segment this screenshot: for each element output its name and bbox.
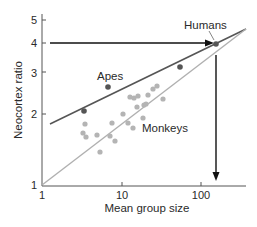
x-tick-label-1: 1 <box>39 189 45 201</box>
neocortex-group-size-chart: 5 4 3 2 1 1 10 100 Mean group size Neoco… <box>0 0 257 227</box>
monkeys-label-marker <box>130 125 135 130</box>
apes-label: Apes <box>97 70 123 82</box>
x-tick-label-100: 100 <box>192 189 210 201</box>
humans-leader-line <box>209 31 214 40</box>
y-tick-label-4: 4 <box>31 37 37 49</box>
x-axis-title: Mean group size <box>104 202 189 214</box>
y-tick-label-3: 3 <box>31 67 37 79</box>
arrowhead-down-icon <box>213 172 220 181</box>
monkeys-points <box>80 83 165 154</box>
humans-label: Humans <box>184 19 227 31</box>
monkeys-label: Monkeys <box>142 122 188 134</box>
y-tick-label-1: 1 <box>31 179 37 191</box>
humans-point <box>213 41 219 47</box>
x-tick-label-10: 10 <box>116 189 128 201</box>
y-axis-title: Neocortex ratio <box>12 61 24 139</box>
y-tick-label-5: 5 <box>31 14 37 26</box>
y-tick-label-2: 2 <box>31 108 37 120</box>
